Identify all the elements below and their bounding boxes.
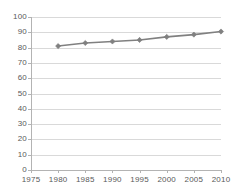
- data-point-marker: [56, 43, 61, 48]
- series-layer: [0, 0, 232, 196]
- data-point-marker: [83, 40, 88, 45]
- data-point-marker: [137, 37, 142, 42]
- data-point-marker: [218, 29, 223, 34]
- data-point-marker: [191, 32, 196, 37]
- line-chart: 0102030405060708090100 19751980198519901…: [0, 0, 232, 196]
- data-point-marker: [110, 39, 115, 44]
- data-point-marker: [164, 34, 169, 39]
